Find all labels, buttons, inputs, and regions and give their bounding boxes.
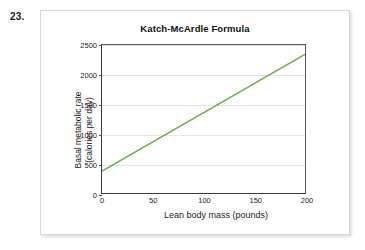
chart-title: Katch-McArdle Formula xyxy=(41,23,349,34)
y-tick-label: 500 xyxy=(84,161,97,170)
x-axis-title: Lean body mass (pounds) xyxy=(96,210,336,220)
figure-card: Katch-McArdle Formula Basal metabolic ra… xyxy=(40,10,350,235)
series-line xyxy=(102,54,305,171)
x-tick-label: 100 xyxy=(198,196,211,205)
y-tick-label: 1500 xyxy=(80,101,97,110)
data-line xyxy=(102,45,305,193)
x-tick-label: 200 xyxy=(301,196,314,205)
y-tick-label: 1000 xyxy=(80,131,97,140)
plot-area: 05001000150020002500 050100150200 xyxy=(101,44,306,194)
y-tick-label: 0 xyxy=(93,191,97,200)
y-tick-label: 2500 xyxy=(80,41,97,50)
y-tick-label: 2000 xyxy=(80,71,97,80)
problem-number: 23. xyxy=(10,11,25,22)
x-tick-label: 150 xyxy=(249,196,262,205)
x-tick-label: 0 xyxy=(100,196,104,205)
x-tick-label: 50 xyxy=(149,196,157,205)
